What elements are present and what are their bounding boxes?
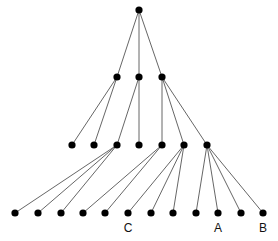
- tree-node-b1: [68, 141, 75, 148]
- labels-layer: CAB: [124, 221, 267, 235]
- tree-node-c9: [192, 209, 199, 216]
- tree-node-c1: [11, 209, 18, 216]
- tree-diagram: CAB: [0, 0, 278, 241]
- edge-a3-b6: [162, 77, 184, 145]
- edge-a1-b2: [94, 77, 117, 145]
- tree-node-c6: [124, 209, 131, 216]
- tree-node-a3: [158, 73, 165, 80]
- tree-node-c8: [169, 209, 176, 216]
- edges-layer: [15, 10, 263, 213]
- edge-b3-c2: [38, 145, 117, 213]
- node-label-b: B: [259, 221, 267, 235]
- edge-b7-c12: [207, 145, 263, 213]
- edge-b6-c8: [173, 145, 184, 213]
- tree-node-b7: [203, 141, 210, 148]
- edge-b3-c1: [15, 145, 117, 213]
- tree-node-b4: [135, 141, 142, 148]
- edge-b5-c4: [83, 145, 162, 213]
- edge-a1-b1: [72, 77, 117, 145]
- tree-node-c10: [214, 209, 221, 216]
- tree-node-c7: [147, 209, 154, 216]
- tree-node-c4: [79, 209, 86, 216]
- tree-node-b2: [90, 141, 97, 148]
- tree-node-r: [135, 6, 142, 13]
- tree-node-b5: [158, 141, 165, 148]
- tree-node-a2: [135, 73, 142, 80]
- tree-node-c5: [101, 209, 108, 216]
- tree-node-b6: [180, 141, 187, 148]
- tree-node-a1: [113, 73, 120, 80]
- edge-b5-c5: [105, 145, 162, 213]
- node-label-a: A: [214, 221, 222, 235]
- tree-node-c3: [57, 209, 64, 216]
- tree-node-c2: [34, 209, 41, 216]
- edge-a2-b3: [117, 77, 139, 145]
- edge-b3-c3: [61, 145, 117, 213]
- edge-r-a3: [139, 10, 162, 77]
- tree-node-c11: [237, 209, 244, 216]
- edge-r-a1: [117, 10, 139, 77]
- tree-node-b3: [113, 141, 120, 148]
- edge-b7-c9: [196, 145, 207, 213]
- edge-a3-b7: [162, 77, 207, 145]
- tree-svg: CAB: [0, 0, 278, 241]
- node-label-c: C: [124, 221, 133, 235]
- tree-node-c12: [259, 209, 266, 216]
